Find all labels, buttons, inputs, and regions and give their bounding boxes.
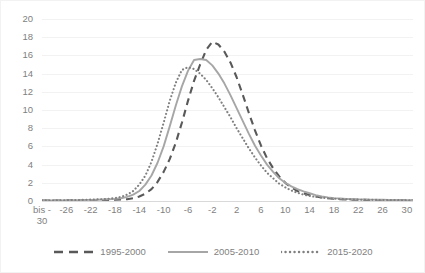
chart-title <box>1 1 425 10</box>
legend-item-2005-2010[interactable]: 2005-2010 <box>168 247 259 257</box>
series-line-2005-2010 <box>42 59 413 200</box>
y-tick-18: 18 <box>22 32 33 42</box>
y-tick-20: 20 <box>22 14 33 24</box>
plot-area <box>42 19 413 201</box>
y-tick-10: 10 <box>22 105 33 115</box>
y-tick-12: 12 <box>22 87 33 97</box>
y-tick-6: 6 <box>28 142 33 152</box>
y-tick-8: 8 <box>28 123 33 133</box>
series-line-2015-2020 <box>42 67 413 200</box>
y-tick-4: 4 <box>28 160 33 170</box>
series-layer <box>42 19 413 201</box>
y-axis-tick-labels: 02468101214161820 <box>1 19 39 201</box>
legend-label-2015-2020: 2015-2020 <box>327 247 372 257</box>
chart-legend: 1995-20002005-20102015-2020 <box>1 242 425 262</box>
legend-label-2005-2010: 2005-2010 <box>214 247 259 257</box>
legend-item-2015-2020[interactable]: 2015-2020 <box>281 247 372 257</box>
y-tick-16: 16 <box>22 51 33 61</box>
legend-swatch-1995-2000 <box>54 248 94 256</box>
series-line-1995-2000 <box>42 42 413 201</box>
legend-label-1995-2000: 1995-2000 <box>100 247 145 257</box>
chart-container: 02468101214161820 bis - 30-26-22-18-14-1… <box>0 0 425 273</box>
legend-item-1995-2000[interactable]: 1995-2000 <box>54 247 145 257</box>
x-tick-30: 30 <box>390 204 424 215</box>
legend-swatch-2015-2020 <box>281 248 321 256</box>
y-tick-2: 2 <box>28 178 33 188</box>
y-tick-14: 14 <box>22 69 33 79</box>
gridline-0 <box>42 201 413 202</box>
x-axis-tick-labels: bis - 30-26-22-18-14-10-6-22610141822263… <box>42 204 413 234</box>
legend-swatch-2005-2010 <box>168 248 208 256</box>
